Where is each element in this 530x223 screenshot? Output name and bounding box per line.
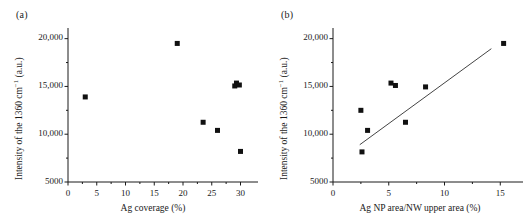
panel-b-x-tick-label: 10 — [431, 188, 459, 198]
panel-a: (a) Intensity of the 1360 cm−1 (a.u.) Ag… — [0, 0, 265, 223]
panel-a-x-axis-title: Ag coverage (%) — [68, 203, 238, 213]
panel-b-label: (b) — [281, 9, 293, 20]
panel-a-data-point — [175, 41, 180, 46]
panel-b-data-point — [365, 128, 370, 133]
panel-a-x-tick-label: 25 — [198, 188, 226, 198]
panel-b-data-point — [403, 120, 408, 125]
panel-b-y-tick-label: 20,000 — [283, 32, 328, 42]
panel-a-y-tick-label: 5000 — [18, 176, 63, 186]
panel-a-label: (a) — [16, 9, 28, 20]
panel-b-x-tick-label: 5 — [375, 188, 403, 198]
panel-a-data-point — [83, 94, 88, 99]
panel-a-x-tick-label: 10 — [112, 188, 140, 198]
panel-b-y-axis-title: Intensity of the 1360 cm−1 (a.u.) — [279, 57, 289, 180]
panel-a-y-tick-label: 15,000 — [18, 80, 63, 90]
panel-a-y-axis-title: Intensity of the 1360 cm−1 (a.u.) — [14, 57, 24, 180]
panel-a-data-point — [237, 82, 242, 87]
panel-b-x-tick-label: 0 — [319, 188, 347, 198]
panel-a-y-tick-label: 10,000 — [18, 128, 63, 138]
panel-b-y-tick-label: 10,000 — [283, 128, 328, 138]
panel-b-data-point — [358, 108, 363, 113]
panel-b-y-tick-label: 15,000 — [283, 80, 328, 90]
panel-a-y-axis-title-post: (a.u.) — [14, 57, 24, 79]
panel-b-data-point — [388, 81, 393, 86]
panel-a-x-tick-label: 20 — [169, 188, 197, 198]
panel-b-data-point — [423, 84, 428, 89]
panel-a-data-point — [215, 128, 220, 133]
panel-b-y-tick-label: 5000 — [283, 176, 328, 186]
panel-a-x-tick-label: 30 — [227, 188, 255, 198]
panel-b-x-tick-label: 15 — [486, 188, 514, 198]
panel-a-y-tick-label: 20,000 — [18, 32, 63, 42]
panel-a-data-point — [201, 120, 206, 125]
panel-a-x-tick-label: 5 — [83, 188, 111, 198]
panel-a-data-point — [238, 149, 243, 154]
panel-b-data-point — [501, 41, 506, 46]
panel-a-x-tick-label: 15 — [140, 188, 168, 198]
figure-scatter-pair: (a) Intensity of the 1360 cm−1 (a.u.) Ag… — [0, 0, 530, 223]
panel-b-x-axis-title: Ag NP area/NW upper area (%) — [315, 203, 525, 213]
panel-b: (b) Intensity of the 1360 cm−1 (a.u.) Ag… — [265, 0, 530, 223]
panel-b-fit-line — [360, 49, 492, 145]
panel-a-x-tick-label: 0 — [54, 188, 82, 198]
panel-b-data-point — [359, 149, 364, 154]
panel-b-data-point — [393, 83, 398, 88]
panel-b-y-axis-title-post: (a.u.) — [279, 57, 289, 79]
